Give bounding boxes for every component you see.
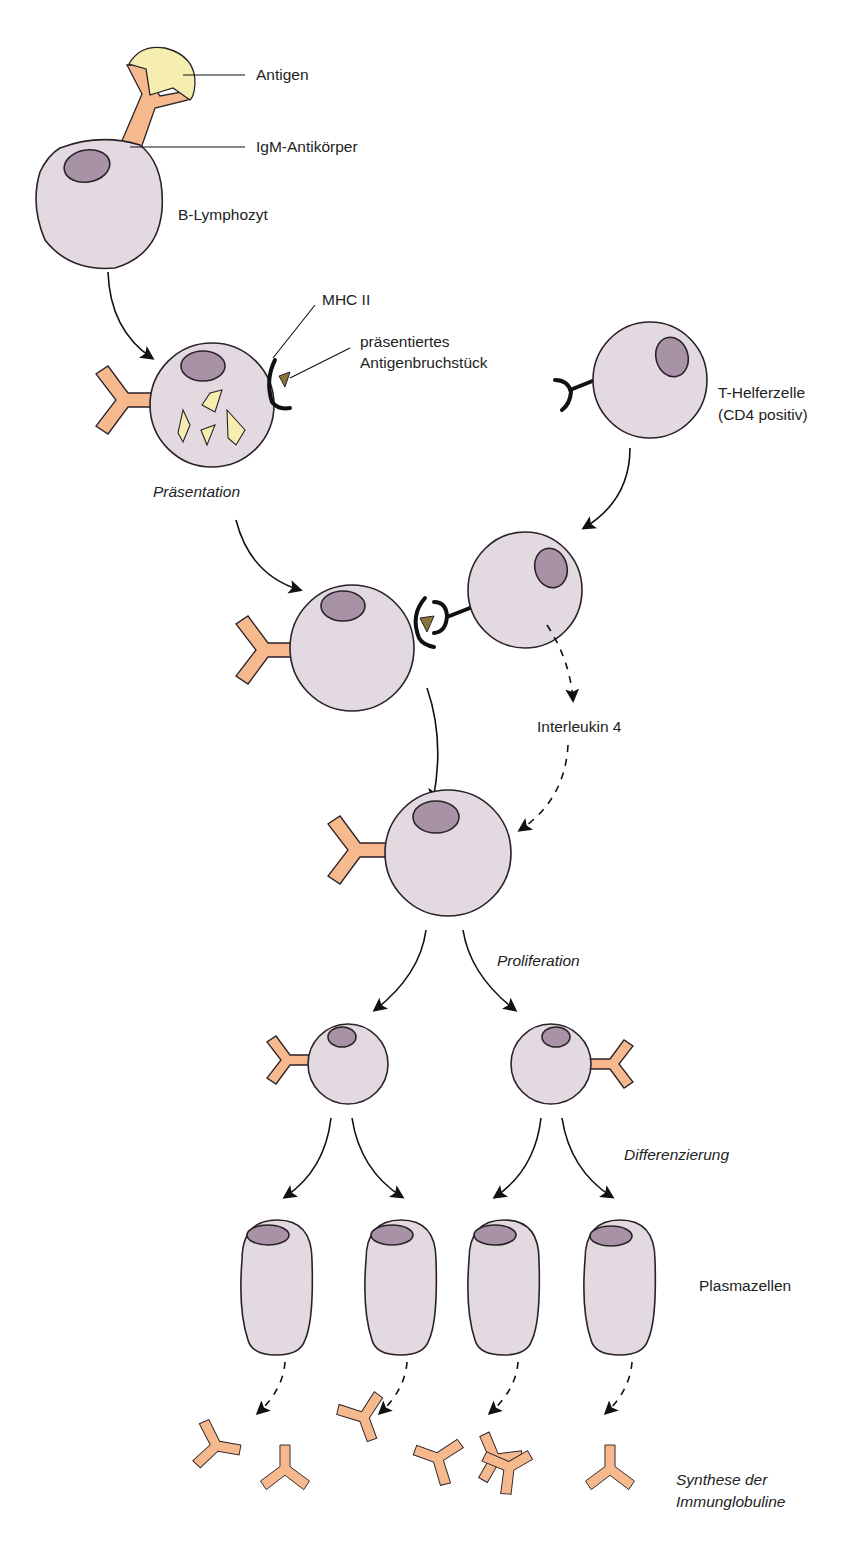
stage-proliferation: Proliferation: [497, 952, 580, 969]
stage-presentation: Präsentation: [153, 483, 240, 500]
b-lymphocyte-presenting: [96, 343, 290, 467]
mhc-ii-receptor: [269, 360, 290, 408]
stage-differentiation: Differenzierung: [624, 1146, 729, 1163]
plasma-cell-2: [365, 1220, 437, 1355]
stage-synthesis-2: Immunglobuline: [676, 1493, 786, 1510]
label-t-helper-2: (CD4 positiv): [718, 406, 808, 423]
arrow-secretion-3: [490, 1362, 518, 1413]
label-plasma-cells: Plasmazellen: [699, 1277, 791, 1294]
b-daughter-left: [267, 1024, 388, 1104]
label-igm-antibody: IgM-Antikörper: [256, 138, 358, 155]
label-presented-fragment-2: Antigenbruchstück: [360, 354, 488, 371]
label-b-lymphocyte: B-Lymphozyt: [178, 206, 269, 223]
arrow-presentation-to-contact: [236, 520, 300, 590]
label-presented-fragment-1: präsentiertes: [360, 333, 450, 350]
b-cell-activation-diagram: Antigen IgM-Antikörper B-Lymphozyt MHC I…: [0, 0, 844, 1545]
b-t-cell-contact: [236, 532, 582, 711]
t-helper-cell: [555, 322, 707, 438]
plasma-cell-3: [468, 1220, 540, 1355]
b-daughter-right: [511, 1024, 633, 1104]
arrow-contact-to-activated: [427, 688, 438, 800]
plasma-cell-4: [584, 1220, 656, 1355]
arrow-secretion-4: [606, 1362, 632, 1413]
arrow-interleukin-to-activated: [520, 745, 568, 830]
arrow-to-presentation: [108, 272, 152, 358]
stage-synthesis-1: Synthese der: [676, 1471, 768, 1488]
label-interleukin: Interleukin 4: [537, 718, 622, 735]
plasma-cell-1: [241, 1220, 313, 1355]
arrow-proliferation-left: [375, 930, 426, 1010]
label-t-helper-1: T-Helferzelle: [718, 384, 805, 401]
label-mhc-ii: MHC II: [322, 291, 370, 308]
immunoglobulins: [192, 1390, 635, 1499]
arrow-diff-1: [285, 1118, 331, 1197]
arrow-diff-2: [352, 1118, 402, 1197]
arrow-secretion-1: [258, 1362, 285, 1413]
label-antigen: Antigen: [256, 66, 309, 83]
b-lymphocyte-naive: [36, 47, 195, 268]
presented-peptide: [279, 372, 290, 387]
arrow-secretion-2: [380, 1362, 407, 1413]
arrow-t-helper-to-contact: [584, 448, 630, 528]
arrow-proliferation-right: [463, 930, 515, 1010]
tcr-receptor: [555, 380, 571, 410]
b-lymphocyte-activated: [328, 790, 511, 916]
arrow-diff-3: [495, 1118, 541, 1197]
arrow-diff-4: [562, 1118, 612, 1197]
